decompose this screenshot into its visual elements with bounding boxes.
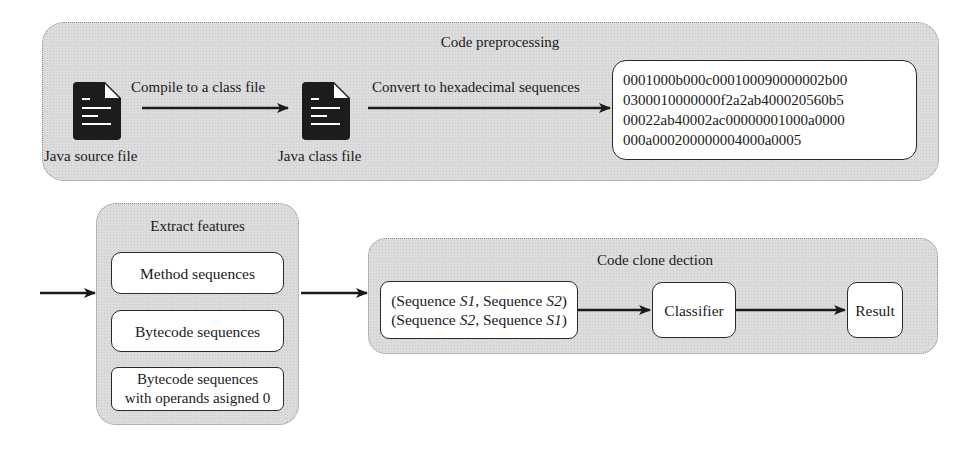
connector-arrows <box>0 0 978 451</box>
